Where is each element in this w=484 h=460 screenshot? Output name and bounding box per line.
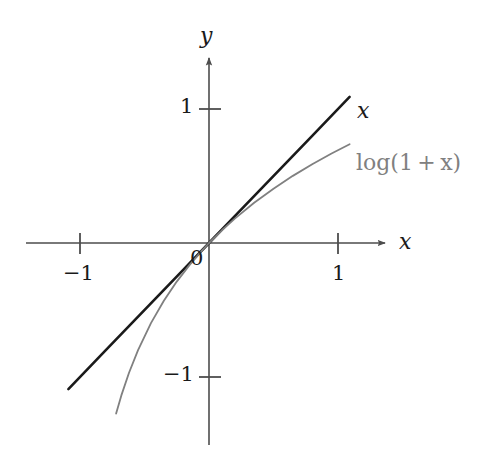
y-tick-label-pos1: 1 <box>180 96 193 117</box>
x-axis <box>26 233 385 254</box>
x-tick-label-neg1: −1 <box>63 263 94 284</box>
function-plot-figure: y x −1 1 1 −1 0 x log(1 + x) <box>0 0 484 460</box>
y-axis-label: y <box>200 25 212 47</box>
y-tick-label-neg1: −1 <box>163 364 194 385</box>
curve-label-identity: x <box>357 100 369 122</box>
x-tick-label-pos1: 1 <box>332 263 345 284</box>
origin-label: 0 <box>190 248 203 269</box>
series-path-log-1-x- <box>116 144 349 413</box>
curve-label-log1plusx: log(1 + x) <box>356 152 461 174</box>
plot-canvas <box>0 0 484 460</box>
x-axis-label: x <box>399 231 411 253</box>
